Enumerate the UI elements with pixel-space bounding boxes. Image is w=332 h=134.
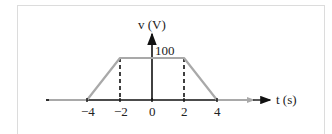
x-axis-label: t (s) bbox=[276, 92, 297, 107]
x-tick-label-m4: −4 bbox=[81, 104, 95, 119]
trapezoid-voltage-chart: v (V) 100 t (s) −4 −2 0 2 4 bbox=[0, 0, 332, 134]
x-tick-label-m2: −2 bbox=[114, 104, 128, 119]
x-tick-label-2: 2 bbox=[181, 104, 188, 119]
x-tick-label-0: 0 bbox=[149, 104, 156, 119]
y-tick-label-100: 100 bbox=[155, 43, 175, 58]
y-axis-label: v (V) bbox=[138, 17, 166, 32]
x-tick-label-4: 4 bbox=[214, 104, 221, 119]
